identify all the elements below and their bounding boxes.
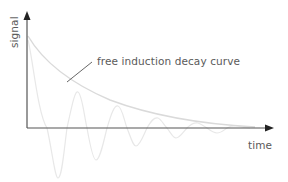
fid-diagram — [0, 0, 288, 182]
x-axis-arrow-icon — [265, 125, 274, 132]
decay-envelope — [28, 36, 255, 127]
y-axis-arrow-icon — [24, 11, 31, 20]
x-axis-label: time — [248, 139, 272, 151]
y-axis-label: signal — [8, 16, 20, 48]
annotation-leader-line — [67, 62, 92, 82]
curve-annotation: free induction decay curve — [97, 55, 240, 67]
